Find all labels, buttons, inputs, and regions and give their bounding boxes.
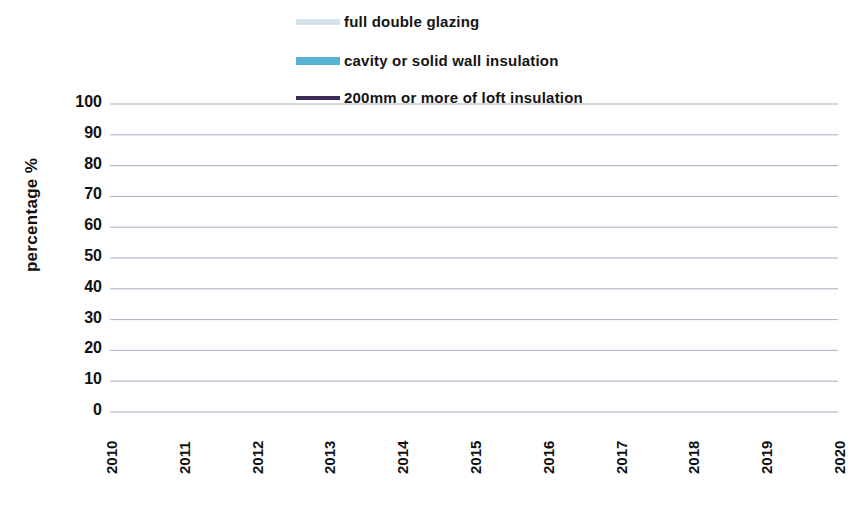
plot-area: [0, 0, 866, 507]
line-chart: full double glazing cavity or solid wall…: [0, 0, 866, 507]
